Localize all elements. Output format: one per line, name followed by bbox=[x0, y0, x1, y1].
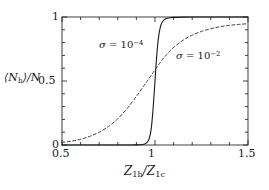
x-axis-label: Z1h/Z1c bbox=[124, 165, 165, 178]
x-axis-label-sub1: 1h bbox=[132, 169, 142, 179]
chart-plot-area bbox=[0, 0, 269, 190]
annotation-sigma-large-exponent: −2 bbox=[210, 50, 220, 58]
x-tick-label-1: 1 bbox=[148, 148, 155, 159]
annotation-sigma-small-symbol: σ bbox=[99, 39, 106, 50]
annotation-sigma-large-eq: = 10 bbox=[183, 50, 210, 61]
annotation-sigma-small-exponent: −4 bbox=[133, 39, 143, 47]
y-tick-label-1: 0.5 bbox=[38, 75, 56, 86]
x-tick-label-2: 1.5 bbox=[238, 148, 256, 159]
annotation-sigma-small: σ = 10−4 bbox=[99, 40, 143, 50]
y-tick-label-0: 0 bbox=[52, 139, 59, 150]
x-axis-label-sub2: 1c bbox=[155, 169, 165, 179]
figure-container: ⟨Nh⟩/N Z1h/Z1c 0.5 1 1.5 1 0.5 0 σ = 10−… bbox=[0, 0, 269, 190]
annotation-sigma-large: σ = 10−2 bbox=[176, 51, 220, 61]
y-tick-label-2: 1 bbox=[52, 11, 59, 22]
curve-series-0 bbox=[62, 17, 248, 145]
data-curves bbox=[62, 17, 248, 145]
y-axis-label: ⟨Nh⟩/N bbox=[4, 72, 40, 84]
annotation-sigma-small-eq: = 10 bbox=[106, 39, 133, 50]
x-axis-label-z2: Z bbox=[147, 164, 155, 178]
y-axis-label-main: ⟨N bbox=[4, 71, 18, 84]
annotation-sigma-large-symbol: σ bbox=[176, 50, 183, 61]
